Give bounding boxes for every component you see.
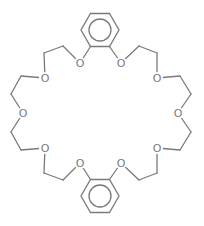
bonds bbox=[11, 46, 191, 180]
oxygen-atom: O bbox=[172, 107, 184, 120]
oxygen-atom: O bbox=[74, 57, 86, 70]
atom-label: O bbox=[153, 142, 162, 155]
atom-label: O bbox=[76, 57, 85, 70]
oxygen-atom: O bbox=[74, 157, 86, 170]
bond-line bbox=[11, 132, 21, 150]
bond-line bbox=[139, 46, 157, 53]
bond-line bbox=[44, 46, 63, 53]
top-benzene-aromatic-circle bbox=[89, 19, 111, 41]
atom-label: O bbox=[41, 142, 50, 155]
atom-label: O bbox=[76, 157, 85, 170]
atom-label: O bbox=[117, 57, 126, 70]
bond-line bbox=[180, 76, 191, 94]
atom-label: O bbox=[19, 107, 28, 120]
atom-label: O bbox=[41, 72, 50, 85]
oxygen-atom: O bbox=[39, 72, 51, 85]
crown-ether-structure: OOOOOOOOOO bbox=[0, 0, 204, 226]
oxygen-atom: O bbox=[115, 57, 127, 70]
bond-line bbox=[139, 173, 157, 180]
bond-line bbox=[180, 132, 191, 150]
oxygen-atom: O bbox=[39, 142, 51, 155]
oxygen-atoms: OOOOOOOOOO bbox=[17, 57, 184, 170]
atom-label: O bbox=[117, 157, 126, 170]
bond-line bbox=[44, 173, 63, 180]
oxygen-atom: O bbox=[151, 142, 163, 155]
oxygen-atom: O bbox=[151, 72, 163, 85]
bottom-benzene-aromatic-circle bbox=[89, 185, 111, 207]
bond-line bbox=[11, 76, 21, 94]
oxygen-atom: O bbox=[17, 107, 29, 120]
benzene-rings bbox=[81, 14, 119, 213]
atom-label: O bbox=[153, 72, 162, 85]
oxygen-atom: O bbox=[115, 157, 127, 170]
atom-label: O bbox=[174, 107, 183, 120]
